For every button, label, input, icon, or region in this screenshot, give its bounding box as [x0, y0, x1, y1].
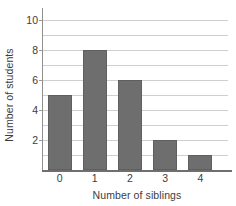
bar-chart: Number of students 246810 01234 Number o…	[0, 0, 236, 206]
y-tick-label: 10	[18, 15, 38, 25]
y-tick-label: 6	[18, 75, 38, 85]
y-tick-label: 4	[18, 105, 38, 115]
x-tick-label: 0	[48, 172, 72, 185]
y-tick-label: 8	[18, 45, 38, 55]
x-tick-label: 2	[118, 172, 142, 185]
bar	[48, 95, 72, 170]
x-tick-label: 1	[83, 172, 107, 185]
y-axis-title: Number of students	[2, 10, 16, 180]
bar	[153, 140, 177, 170]
bar	[188, 155, 212, 170]
y-tick-label: 2	[18, 135, 38, 145]
y-axis-tick-labels: 246810	[18, 12, 38, 170]
bar-series	[42, 12, 232, 170]
x-tick-label: 3	[153, 172, 177, 185]
x-tick-label: 4	[188, 172, 212, 185]
x-axis-tick-labels: 01234	[42, 172, 232, 186]
plot-area	[42, 12, 232, 170]
bar	[83, 50, 107, 170]
x-axis-title: Number of siblings	[42, 189, 232, 202]
bar	[118, 80, 142, 170]
